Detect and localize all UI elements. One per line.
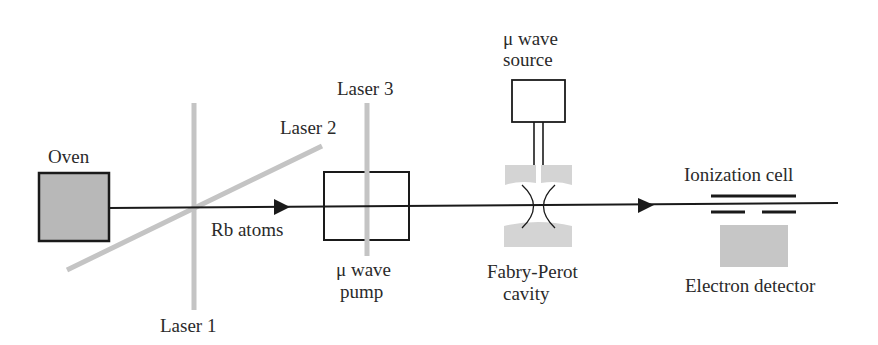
microwave-source-label-line1: μ wave — [503, 28, 558, 49]
cavity-top-mirror-left — [505, 165, 536, 185]
experimental-setup-diagram: Oven Rb atoms Laser 1 Laser 2 Laser 3 μ … — [0, 0, 878, 345]
rb-atoms-label: Rb atoms — [211, 219, 283, 240]
cavity-mode-left — [522, 185, 534, 228]
fabry-perot-label-line1: Fabry-Perot — [487, 261, 578, 282]
microwave-source-box — [512, 80, 565, 122]
oven-box — [39, 173, 109, 241]
microwave-source-label-line2: source — [503, 49, 553, 70]
electron-detector-box — [720, 225, 788, 267]
cavity-mode-right — [544, 185, 556, 228]
beam-arrow-2 — [638, 198, 654, 213]
microwave-pump-label-line1: μ wave — [336, 259, 391, 280]
laser1-label: Laser 1 — [160, 315, 216, 336]
laser2-label: Laser 2 — [280, 117, 336, 138]
atomic-beam — [109, 203, 838, 208]
electron-detector-label: Electron detector — [685, 275, 816, 296]
beam-arrow-1 — [274, 199, 290, 215]
cavity-bottom-mirror — [504, 222, 572, 247]
oven-label: Oven — [48, 146, 90, 167]
cavity-top-mirror-right — [541, 165, 572, 185]
microwave-pump-label-line2: pump — [340, 281, 383, 302]
ionization-cell-label: Ionization cell — [684, 164, 793, 185]
fabry-perot-label-line2: cavity — [503, 283, 550, 304]
laser3-label: Laser 3 — [337, 78, 393, 99]
